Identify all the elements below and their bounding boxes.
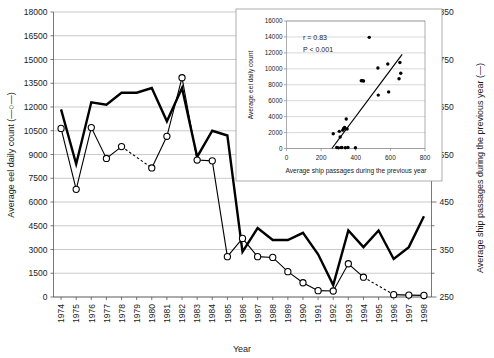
left-axis-title: Average eel daily count (—○—) bbox=[6, 92, 16, 217]
main-x-tick-label: 1979 bbox=[132, 304, 142, 323]
inset-scatter-point bbox=[368, 36, 371, 39]
inset-x-tick-label: 0 bbox=[285, 154, 289, 161]
inset-x-tick-label: 400 bbox=[350, 154, 361, 161]
inset-y-axis-title: Average eel daily count bbox=[247, 51, 255, 120]
main-left-tick-label: 3000 bbox=[29, 245, 48, 255]
main-x-tick-label: 1988 bbox=[268, 304, 278, 323]
main-x-tick-label: 1980 bbox=[147, 304, 157, 323]
x-axis-title: Year bbox=[233, 344, 251, 354]
main-x-tick-label: 1978 bbox=[117, 304, 127, 323]
main-left-tick-label: 1500 bbox=[29, 268, 48, 278]
inset-correlation-annotation: r = 0.83 bbox=[303, 34, 327, 41]
eel-count-marker bbox=[345, 261, 351, 267]
main-left-tick-label: 18000 bbox=[24, 7, 48, 17]
main-x-tick-label: 1992 bbox=[328, 304, 338, 323]
eel-count-marker bbox=[164, 133, 170, 139]
inset-scatter-point bbox=[398, 61, 401, 64]
inset-scatter-point bbox=[345, 127, 348, 130]
main-x-tick-label: 1996 bbox=[389, 304, 399, 323]
eel-count-marker bbox=[103, 155, 109, 161]
eel-count-marker bbox=[73, 186, 79, 192]
inset-scatter-point bbox=[338, 130, 341, 133]
main-left-tick-label: 12000 bbox=[24, 102, 48, 112]
inset-scatter-point bbox=[340, 146, 343, 149]
inset-scatter-point bbox=[345, 117, 348, 120]
inset-y-tick-label: 10000 bbox=[265, 65, 283, 72]
main-x-tick-label: 1990 bbox=[298, 304, 308, 323]
chart-canvas: 0150030004500600075009000105001200013500… bbox=[0, 0, 494, 358]
eel-count-marker bbox=[391, 292, 397, 298]
inset-y-tick-label: 0 bbox=[279, 145, 283, 152]
inset-scatter-point bbox=[346, 146, 349, 149]
inset-scatter-point bbox=[338, 135, 341, 138]
eel-count-marker bbox=[421, 292, 427, 298]
eel-count-marker bbox=[179, 75, 185, 81]
main-left-tick-label: 16500 bbox=[24, 31, 48, 41]
eel-count-marker bbox=[406, 292, 412, 298]
main-left-tick-label: 13500 bbox=[24, 78, 48, 88]
main-right-tick-label: 450 bbox=[440, 197, 454, 207]
main-right-tick-label: 250 bbox=[440, 292, 454, 302]
main-x-tick-label: 1985 bbox=[223, 304, 233, 323]
inset-y-tick-label: 2000 bbox=[268, 129, 283, 136]
eel-count-marker bbox=[285, 269, 291, 275]
eel-count-marker bbox=[58, 125, 64, 131]
right-axis-title: Average ship passages during the previou… bbox=[475, 63, 485, 273]
inset-y-tick-label: 12000 bbox=[265, 49, 283, 56]
inset-scatter-plot: 0200040006000800010000120001400016000 02… bbox=[236, 9, 442, 181]
inset-y-tick-label: 14000 bbox=[265, 33, 283, 40]
eel-count-marker bbox=[149, 165, 155, 171]
inset-scatter-point bbox=[397, 77, 400, 80]
main-x-tick-label: 1997 bbox=[404, 304, 414, 323]
eel-count-marker bbox=[194, 157, 200, 163]
inset-y-tick-label: 6000 bbox=[268, 97, 283, 104]
main-left-tick-label: 9000 bbox=[29, 150, 48, 160]
main-left-tick-label: 10500 bbox=[24, 126, 48, 136]
eel-count-marker bbox=[255, 254, 261, 260]
main-x-tick-label: 1975 bbox=[71, 304, 81, 323]
eel-count-marker bbox=[209, 158, 215, 164]
inset-y-tick-label: 8000 bbox=[268, 81, 283, 88]
eel-count-marker bbox=[239, 235, 245, 241]
inset-scatter-point bbox=[387, 90, 390, 93]
inset-pvalue-annotation: P < 0.001 bbox=[303, 46, 333, 53]
inset-scatter-point bbox=[399, 71, 402, 74]
main-x-tick-label: 1987 bbox=[253, 304, 263, 323]
main-left-tick-label: 4500 bbox=[29, 221, 48, 231]
main-x-tick-label: 1994 bbox=[359, 304, 369, 323]
main-x-tick-label: 1995 bbox=[374, 304, 384, 323]
inset-x-axis-title: Average ship passages during the previou… bbox=[286, 167, 428, 175]
inset-scatter-point bbox=[376, 66, 379, 69]
eel-ship-figure: 0150030004500600075009000105001200013500… bbox=[0, 0, 494, 358]
eel-count-marker bbox=[118, 143, 124, 149]
inset-y-tick-label: 16000 bbox=[265, 17, 283, 24]
main-x-tick-label: 1991 bbox=[313, 304, 323, 323]
eel-count-marker bbox=[300, 280, 306, 286]
inset-scatter-point bbox=[386, 62, 389, 65]
main-x-tick-label: 1977 bbox=[102, 304, 112, 323]
main-x-tick-label: 1984 bbox=[207, 304, 217, 323]
inset-x-tick-label: 200 bbox=[316, 154, 327, 161]
eel-count-marker bbox=[88, 124, 94, 130]
eel-count-marker bbox=[224, 254, 230, 260]
eel-count-marker bbox=[360, 274, 366, 280]
eel-count-marker bbox=[330, 288, 336, 294]
main-x-tick-label: 1982 bbox=[177, 304, 187, 323]
inset-scatter-point bbox=[377, 93, 380, 96]
main-left-tick-label: 0 bbox=[43, 292, 48, 302]
main-right-tick-label: 350 bbox=[440, 245, 454, 255]
main-x-tick-label: 1974 bbox=[56, 304, 66, 323]
main-x-tick-label: 1998 bbox=[419, 304, 429, 323]
inset-x-tick-label: 600 bbox=[385, 154, 396, 161]
inset-y-tick-label: 4000 bbox=[268, 113, 283, 120]
main-x-tick-label: 1983 bbox=[192, 304, 202, 323]
main-left-tick-label: 6000 bbox=[29, 197, 48, 207]
eel-count-marker bbox=[315, 288, 321, 294]
eel-count-marker bbox=[270, 254, 276, 260]
main-x-tick-label: 1976 bbox=[87, 304, 97, 323]
main-left-tick-label: 7500 bbox=[29, 173, 48, 183]
main-x-tick-label: 1989 bbox=[283, 304, 293, 323]
inset-scatter-point bbox=[362, 79, 365, 82]
main-x-tick-label: 1993 bbox=[344, 304, 354, 323]
inset-scatter-point bbox=[354, 146, 357, 149]
